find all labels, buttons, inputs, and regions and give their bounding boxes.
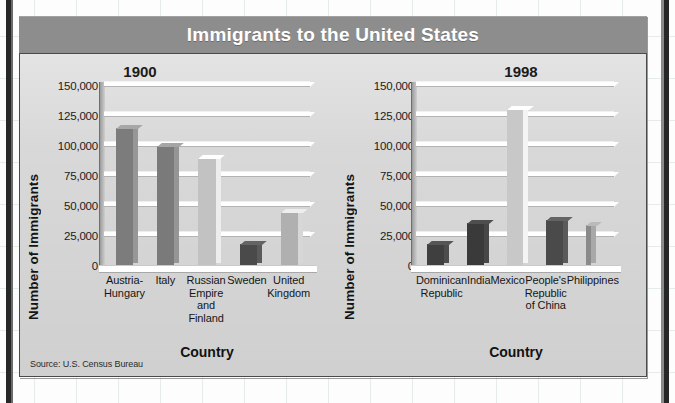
chart-1998-x-axis-label: Country — [416, 344, 616, 360]
figure-title: Immigrants to the United States — [187, 24, 479, 46]
bar-side — [484, 220, 489, 263]
bar-face — [467, 223, 484, 266]
y-tick-label: 75,000 — [40, 170, 98, 182]
chart-1998-x-axis — [411, 265, 621, 273]
x-tick-label: People's Republic of China — [525, 274, 567, 344]
figure-panel: Immigrants to the United States 1900 Num… — [19, 16, 647, 378]
bar-top — [467, 220, 493, 224]
x-tick-label: United Kingdom — [267, 274, 310, 344]
bar-side — [523, 106, 528, 263]
bar-top — [157, 143, 184, 147]
bar-top — [586, 222, 601, 226]
bar-face — [198, 158, 215, 266]
y-tick-label: 25,000 — [40, 230, 98, 242]
x-tick-label: Austria- Hungary — [104, 274, 145, 344]
bar-side — [591, 222, 596, 263]
chart-1900: 1900 Number of Immigrants 025,00050,0007… — [22, 54, 334, 378]
chart-1900-plot-area — [104, 86, 310, 266]
bar-face — [546, 220, 563, 266]
bar-top — [116, 125, 143, 129]
bar — [586, 225, 592, 266]
chart-1900-x-axis — [99, 265, 317, 273]
bar — [546, 220, 563, 266]
chart-1900-y-axis-label: Number of Immigrants — [26, 150, 41, 320]
chart-1998-y-ticks: 025,00050,00075,000100,000125,000150,000 — [356, 54, 414, 378]
chart-1900-y-ticks: 025,00050,00075,000100,000125,000150,000 — [40, 54, 98, 378]
bar-top — [427, 241, 453, 245]
y-tick-label: 150,000 — [356, 80, 414, 92]
y-tick-label: 125,000 — [356, 110, 414, 122]
bar-face — [116, 128, 133, 266]
bar-top — [240, 241, 267, 245]
y-tick-label: 0 — [356, 260, 414, 272]
bar — [467, 223, 484, 266]
bar-face — [157, 146, 174, 266]
x-tick-label: Italy — [145, 274, 186, 344]
x-tick-label: India — [467, 274, 490, 344]
bar-face — [507, 109, 524, 266]
source-note: Source: U.S. Census Bureau — [30, 359, 143, 369]
page-right-edge — [664, 0, 669, 403]
y-tick-label: 50,000 — [40, 200, 98, 212]
x-tick-label: Philippines — [567, 274, 619, 344]
y-tick-label: 100,000 — [356, 140, 414, 152]
bar — [198, 158, 215, 266]
x-tick-label: Russian Empire and Finland — [186, 274, 227, 344]
bar — [427, 244, 444, 266]
plot-frame: 1900 Number of Immigrants 025,00050,0007… — [19, 53, 647, 377]
bar-face — [427, 244, 444, 266]
x-tick-label: Dominican Republic — [416, 274, 467, 344]
x-tick-label: Mexico — [490, 274, 524, 344]
bar — [507, 109, 524, 266]
bar-side — [133, 125, 138, 263]
chart-1900-x-tick-labels: Austria- HungaryItalyRussian Empire and … — [104, 274, 310, 344]
chart-1900-x-axis-label: Country — [104, 344, 310, 360]
y-tick-label: 75,000 — [356, 170, 414, 182]
bar — [240, 244, 257, 266]
bar-top — [546, 217, 572, 221]
chart-1998-x-tick-labels: Dominican RepublicIndiaMexicoPeople's Re… — [416, 274, 616, 344]
bar — [281, 212, 298, 266]
bar-side — [174, 143, 179, 263]
bar — [157, 146, 174, 266]
y-tick-label: 125,000 — [40, 110, 98, 122]
bar-top — [281, 209, 308, 213]
page-left-edge-shadow — [11, 0, 13, 403]
x-tick-label: Sweden — [226, 274, 267, 344]
chart-1900-bars — [104, 86, 310, 266]
chart-1998: 1998 Number of Immigrants 025,00050,0007… — [338, 54, 644, 378]
chart-1998-plot-area — [416, 86, 614, 266]
bar-side — [563, 217, 568, 263]
y-tick-label: 100,000 — [40, 140, 98, 152]
bar-face — [240, 244, 257, 266]
y-tick-label: 50,000 — [356, 200, 414, 212]
chart-1998-bars — [416, 86, 614, 266]
y-tick-label: 0 — [40, 260, 98, 272]
bar-top — [507, 106, 533, 110]
bar-top — [198, 155, 225, 159]
figure-title-bar: Immigrants to the United States — [19, 16, 647, 53]
y-tick-label: 150,000 — [40, 80, 98, 92]
page-right-edge-shadow — [661, 0, 664, 403]
bar-side — [216, 155, 221, 263]
bar-face — [281, 212, 298, 266]
bar-side — [298, 209, 303, 263]
y-tick-label: 25,000 — [356, 230, 414, 242]
chart-1998-y-axis-label: Number of Immigrants — [342, 150, 357, 320]
bar — [116, 128, 133, 266]
